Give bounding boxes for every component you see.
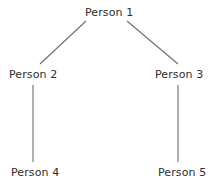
edge-person-1-to-person-2 (40, 21, 86, 64)
diagram-canvas: Person 1 Person 2 Person 3 Person 4 Pers… (0, 0, 216, 186)
node-label-person-2: Person 2 (9, 68, 57, 81)
node-label-person-5: Person 5 (158, 166, 206, 179)
node-label-person-3: Person 3 (155, 68, 203, 81)
edge-person-1-to-person-3 (127, 21, 178, 64)
node-label-person-1: Person 1 (85, 6, 133, 19)
edges-layer (0, 0, 216, 186)
node-label-person-4: Person 4 (11, 166, 59, 179)
